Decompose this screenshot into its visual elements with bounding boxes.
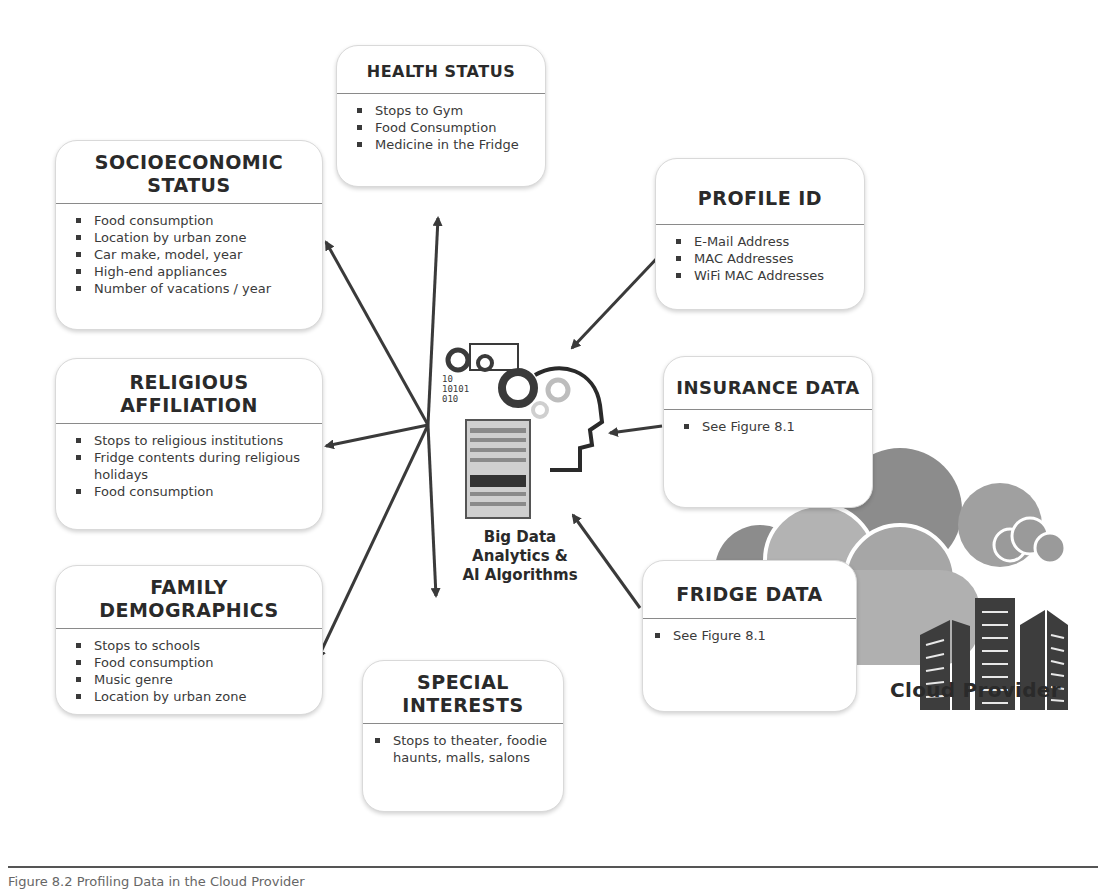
box-title: FAMILY DEMOGRAPHICS [56, 566, 322, 629]
list-item: Stops to theater, foodie haunts, malls, … [373, 732, 553, 766]
head-gears-server-icon: 10 10101 010 [440, 330, 610, 520]
center-label: Big Data Analytics & AI Algorithms [440, 528, 600, 585]
religious-affiliation-box: RELIGIOUS AFFILIATION Stops to religious… [55, 358, 323, 530]
profile-id-box: PROFILE ID E-Mail Address MAC Addresses … [655, 158, 865, 310]
list-item: See Figure 8.1 [682, 418, 862, 435]
svg-text:10: 10 [442, 374, 453, 384]
list-item: Fridge contents during religious holiday… [74, 449, 312, 483]
box-title: PROFILE ID [656, 159, 864, 225]
list-item: High-end appliances [74, 263, 312, 280]
item-list: E-Mail Address MAC Addresses WiFi MAC Ad… [656, 225, 864, 292]
box-title: RELIGIOUS AFFILIATION [56, 359, 322, 424]
list-item: Stops to schools [74, 637, 312, 654]
list-item: WiFi MAC Addresses [674, 267, 854, 284]
item-list: Stops to theater, foodie haunts, malls, … [363, 724, 563, 774]
special-interests-box: SPECIAL INTERESTS Stops to theater, food… [362, 660, 564, 812]
item-list: Food consumption Location by urban zone … [56, 204, 322, 305]
list-item: Food consumption [74, 212, 312, 229]
family-demographics-box: FAMILY DEMOGRAPHICS Stops to schools Foo… [55, 565, 323, 715]
list-item: Car make, model, year [74, 246, 312, 263]
list-item: Food consumption [74, 654, 312, 671]
fridge-data-box: FRIDGE DATA See Figure 8.1 [642, 560, 857, 712]
list-item: See Figure 8.1 [653, 627, 846, 644]
box-title: SPECIAL INTERESTS [363, 661, 563, 724]
insurance-data-box: INSURANCE DATA See Figure 8.1 [663, 356, 873, 508]
item-list: Stops to Gym Food Consumption Medicine i… [337, 94, 545, 161]
list-item: Stops to religious institutions [74, 432, 312, 449]
box-title: HEALTH STATUS [337, 46, 545, 94]
box-title: FRIDGE DATA [643, 561, 856, 619]
center-label-line3: AI Algorithms [440, 566, 600, 585]
item-list: See Figure 8.1 [664, 410, 872, 443]
item-list: Stops to schools Food consumption Music … [56, 629, 322, 713]
health-status-box: HEALTH STATUS Stops to Gym Food Consumpt… [336, 45, 546, 187]
list-item: E-Mail Address [674, 233, 854, 250]
list-item: Food consumption [74, 483, 312, 500]
item-list: Stops to religious institutions Fridge c… [56, 424, 322, 508]
svg-text:10101: 10101 [442, 384, 469, 394]
svg-text:010: 010 [442, 394, 458, 404]
list-item: Food Consumption [355, 119, 535, 136]
list-item: Music genre [74, 671, 312, 688]
list-item: MAC Addresses [674, 250, 854, 267]
list-item: Location by urban zone [74, 229, 312, 246]
list-item: Location by urban zone [74, 688, 312, 705]
box-title: SOCIOECONOMIC STATUS [56, 141, 322, 204]
list-item: Medicine in the Fridge [355, 136, 535, 153]
center-label-line2: Analytics & [440, 547, 600, 566]
box-title: INSURANCE DATA [664, 357, 872, 410]
list-item: Number of vacations / year [74, 280, 312, 297]
center-label-line1: Big Data [440, 528, 600, 547]
cloud-provider-label: Cloud Provider [890, 678, 1080, 702]
socioeconomic-status-box: SOCIOECONOMIC STATUS Food consumption Lo… [55, 140, 323, 330]
list-item: Stops to Gym [355, 102, 535, 119]
item-list: See Figure 8.1 [643, 619, 856, 652]
